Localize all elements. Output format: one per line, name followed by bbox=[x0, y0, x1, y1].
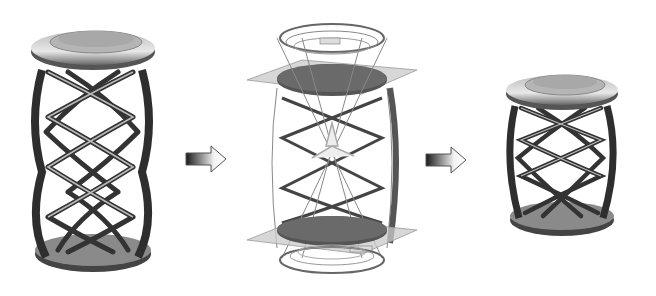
original-helix-stand bbox=[28, 22, 158, 280]
right-arrow-icon bbox=[185, 145, 227, 173]
plane-label-top bbox=[320, 38, 340, 44]
helix-stand-illustration bbox=[503, 68, 621, 240]
helix-stand-illustration bbox=[28, 22, 158, 280]
process-arrow-2 bbox=[425, 146, 467, 174]
cad-editing-view bbox=[242, 18, 420, 276]
process-arrow-1 bbox=[185, 145, 227, 173]
shortened-helix-stand bbox=[503, 68, 621, 240]
wireframe-section-illustration bbox=[242, 18, 420, 276]
right-arrow-icon bbox=[425, 146, 467, 174]
